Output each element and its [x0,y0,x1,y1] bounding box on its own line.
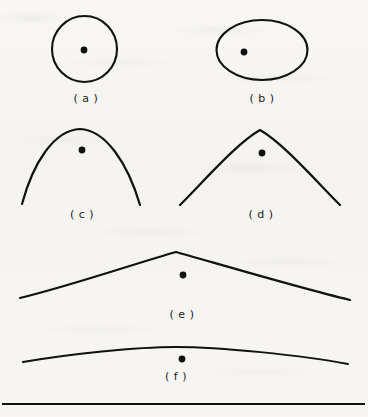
wide-peaked-arc [180,130,340,205]
figure-caption-e: ( e ) [170,308,195,321]
ellipse-outline [217,20,308,80]
figure-caption-f: ( f ) [165,370,187,383]
figure-caption-b: ( b ) [249,92,274,105]
very-flat-arc [23,347,348,364]
center-dot-f [179,356,186,363]
center-dot-a [81,47,88,54]
narrow-parabolic-arc [22,129,140,205]
figure-page: ( a )( b )( c )( d )( e )( f ) [0,0,368,417]
center-dot-b [241,49,248,56]
figure-caption-d: ( d ) [248,208,273,221]
center-dot-e [180,272,187,279]
center-dot-c [79,147,86,154]
figure-drawing [0,0,368,417]
center-dot-d [259,150,266,157]
figure-caption-a: ( a ) [74,92,99,105]
figure-caption-c: ( c ) [70,208,94,221]
